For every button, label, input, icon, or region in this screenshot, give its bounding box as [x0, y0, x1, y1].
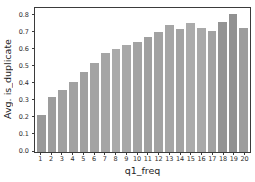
bar-q1freq-1 [37, 115, 46, 152]
x-axis-label: q1_freq [34, 165, 251, 176]
x-tick-label: 5 [81, 156, 85, 163]
x-tick-label: 3 [60, 156, 64, 163]
x-tick: 15 [187, 153, 196, 163]
x-tick: 19 [230, 153, 239, 163]
x-tick: 6 [90, 153, 99, 163]
bar-q1freq-16 [197, 28, 206, 152]
x-tick: 20 [240, 153, 249, 163]
x-tick: 5 [79, 153, 88, 163]
y-tick-label: 0.5 [19, 63, 29, 70]
bar-q1freq-6 [90, 63, 99, 152]
x-tick: 10 [133, 153, 142, 163]
bar-q1freq-18 [218, 22, 227, 152]
x-tick-label: 9 [124, 156, 128, 163]
x-tick: 4 [68, 153, 77, 163]
x-tick-label: 14 [176, 156, 184, 163]
y-axis-ticks: 0.00.10.20.30.40.50.60.70.8 [0, 7, 34, 151]
x-tick: 17 [208, 153, 217, 163]
bar-q1freq-20 [239, 28, 248, 152]
x-tick: 3 [58, 153, 67, 163]
x-tick-label: 16 [197, 156, 205, 163]
bar-q1freq-15 [186, 23, 195, 152]
bar-q1freq-7 [101, 53, 110, 152]
bar-q1freq-11 [144, 37, 153, 152]
bar-q1freq-14 [176, 29, 185, 152]
bar-q1freq-10 [133, 42, 142, 152]
x-tick: 11 [144, 153, 153, 163]
bar-q1freq-13 [165, 25, 174, 152]
bar-q1freq-3 [58, 90, 67, 152]
x-tick-label: 20 [240, 156, 248, 163]
x-tick-label: 7 [103, 156, 107, 163]
y-tick-label: 0.6 [19, 46, 29, 53]
x-tick: 16 [197, 153, 206, 163]
x-tick-label: 19 [230, 156, 238, 163]
x-tick-label: 13 [165, 156, 173, 163]
y-tick-label: 0.7 [19, 28, 29, 35]
x-tick-label: 17 [208, 156, 216, 163]
x-tick-label: 4 [71, 156, 75, 163]
bar-q1freq-4 [69, 82, 78, 152]
x-axis-ticks: 1234567891011121314151617181920 [34, 153, 251, 163]
y-tick-label: 0.2 [19, 114, 29, 121]
bar-q1freq-9 [122, 45, 131, 152]
y-tick-label: 0.0 [19, 148, 29, 155]
bar-q1freq-5 [80, 72, 89, 152]
bar-q1freq-19 [229, 14, 238, 152]
plot-area [34, 7, 251, 153]
x-tick: 9 [122, 153, 131, 163]
bar-chart-figure: Avg. is_duplicate 0.00.10.20.30.40.50.60… [0, 0, 255, 182]
x-tick: 18 [219, 153, 228, 163]
x-tick: 1 [36, 153, 45, 163]
bar-q1freq-2 [48, 97, 57, 152]
x-tick: 2 [47, 153, 56, 163]
x-tick: 8 [111, 153, 120, 163]
x-tick-label: 10 [133, 156, 141, 163]
x-tick-label: 11 [144, 156, 152, 163]
x-tick-label: 12 [154, 156, 162, 163]
x-tick-label: 15 [187, 156, 195, 163]
y-tick-label: 0.8 [19, 11, 29, 18]
x-tick: 12 [154, 153, 163, 163]
x-tick-label: 18 [219, 156, 227, 163]
x-tick-label: 2 [49, 156, 53, 163]
bar-q1freq-8 [112, 49, 121, 152]
x-tick-label: 8 [114, 156, 118, 163]
x-tick-label: 1 [38, 156, 42, 163]
y-tick-label: 0.1 [19, 131, 29, 138]
x-tick: 14 [176, 153, 185, 163]
x-tick: 13 [165, 153, 174, 163]
x-tick: 7 [101, 153, 110, 163]
y-tick-label: 0.4 [19, 80, 29, 87]
x-tick-label: 6 [92, 156, 96, 163]
y-tick-label: 0.3 [19, 97, 29, 104]
bar-q1freq-17 [208, 31, 217, 152]
bars-container [35, 8, 250, 152]
bar-q1freq-12 [154, 32, 163, 152]
